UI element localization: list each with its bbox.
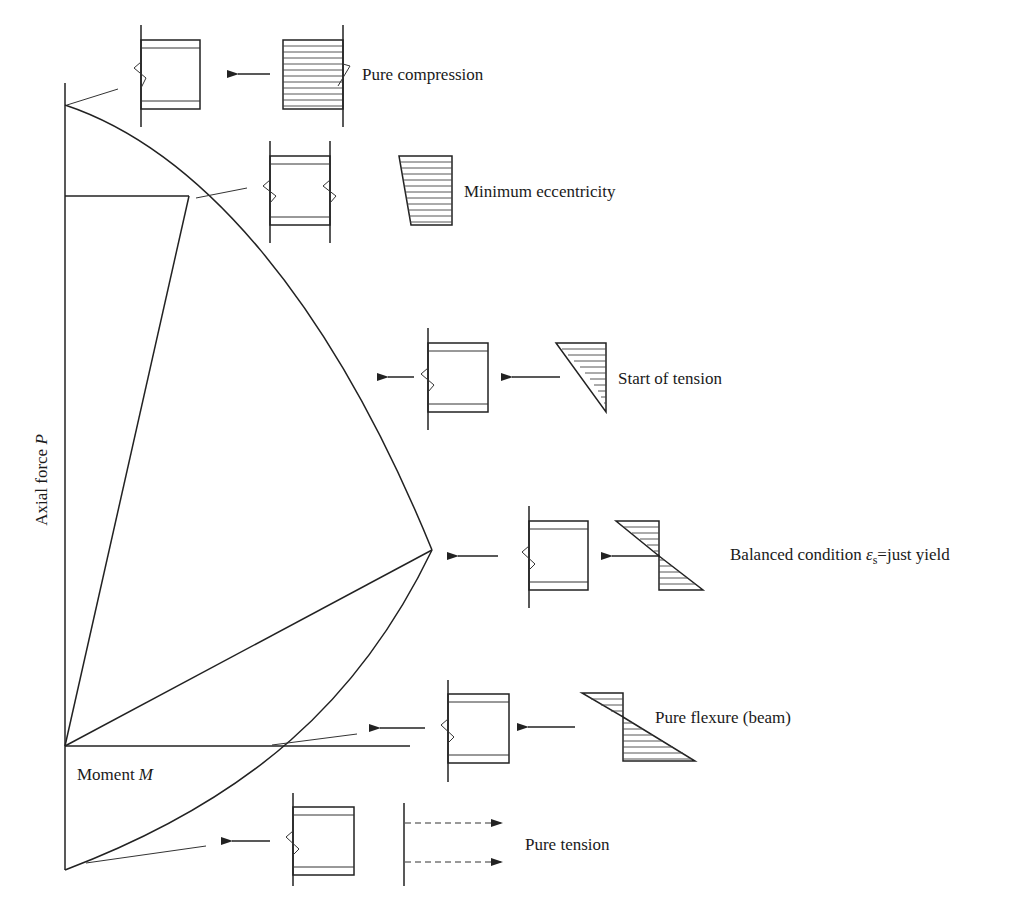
label-pure-flexure: Pure flexure (beam) bbox=[655, 708, 791, 727]
section-pure-compression: Pure compression bbox=[134, 25, 484, 127]
radial-line-balanced bbox=[65, 550, 432, 746]
section-balanced-condition: Balanced condition εs=just yield bbox=[522, 506, 950, 608]
moment-label: Moment M bbox=[77, 765, 154, 784]
label-minimum-eccentricity: Minimum eccentricity bbox=[464, 182, 616, 201]
section-pure-tension: Pure tension bbox=[286, 793, 610, 886]
pm-plot: Axial force P Moment M bbox=[32, 83, 498, 870]
leader-pure-compression bbox=[67, 89, 118, 105]
section-pure-flexure: Pure flexure (beam) bbox=[441, 680, 791, 782]
section-minimum-eccentricity: Minimum eccentricity bbox=[263, 141, 616, 243]
interaction-curve-lower bbox=[65, 550, 432, 870]
label-start-of-tension: Start of tension bbox=[618, 369, 722, 388]
leader-pure-flexure bbox=[272, 734, 357, 745]
label-pure-compression: Pure compression bbox=[362, 65, 484, 84]
axial-force-label: Axial force P bbox=[32, 434, 51, 526]
interaction-diagram: Axial force P Moment M Pure compression bbox=[0, 0, 1035, 912]
section-start-of-tension: Start of tension bbox=[421, 328, 722, 430]
radial-line-min-ecc bbox=[65, 196, 189, 746]
label-balanced-condition: Balanced condition εs=just yield bbox=[730, 545, 950, 567]
interaction-curve-upper bbox=[65, 105, 432, 550]
label-pure-tension: Pure tension bbox=[525, 835, 610, 854]
